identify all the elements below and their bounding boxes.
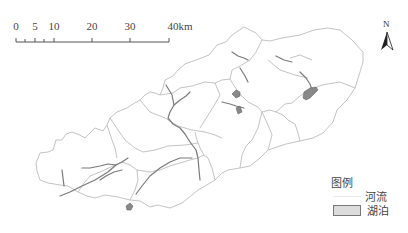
north-arrow-icon <box>381 32 393 50</box>
scale-label-10: 10 <box>49 20 60 32</box>
rivers <box>60 52 312 196</box>
legend-item-lake: 湖泊 <box>333 202 389 218</box>
legend-label-lake: 湖泊 <box>367 202 389 218</box>
scale-label-40km: 40km <box>167 20 192 32</box>
river-line-icon <box>333 196 361 197</box>
scale-label-30: 30 <box>125 20 136 32</box>
district-boundaries <box>36 27 363 208</box>
scale-bar <box>16 38 169 42</box>
lakes <box>126 87 318 210</box>
lake-polygon-icon <box>333 205 361 216</box>
scale-label-0: 0 <box>13 20 19 32</box>
north-arrow-label: N <box>383 19 390 29</box>
scale-label-20: 20 <box>87 20 98 32</box>
scale-label-5: 5 <box>32 20 38 32</box>
